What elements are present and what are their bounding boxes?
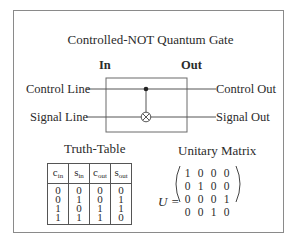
right-paren-icon — [236, 166, 240, 202]
matrix-parens — [0, 0, 301, 246]
left-paren-icon — [176, 166, 180, 202]
unitary-matrix: 1000 0100 0001 0010 — [181, 167, 233, 219]
